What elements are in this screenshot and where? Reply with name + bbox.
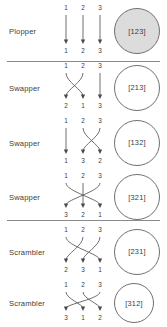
strand-arrowhead xyxy=(81,204,85,209)
strand-arrowhead xyxy=(98,204,102,209)
strand-path xyxy=(83,128,100,151)
strand-paths xyxy=(56,279,110,327)
row-label: Swapper xyxy=(9,138,40,147)
permutation-circle: [132] xyxy=(114,120,160,166)
strand-arrowhead xyxy=(64,307,68,312)
strand-arrowhead xyxy=(81,307,85,312)
strand-arrowhead xyxy=(81,259,85,264)
strand-paths xyxy=(56,224,110,279)
strand-paths xyxy=(56,2,110,60)
strand-path xyxy=(66,292,100,308)
permutation-circle: [312] xyxy=(114,283,154,323)
braid-diagram: 123312 xyxy=(56,279,110,327)
braid-diagram: 123231 xyxy=(56,224,110,279)
strand-arrowhead xyxy=(64,259,68,264)
group-separator xyxy=(7,61,160,62)
row-label: Swapper xyxy=(9,193,40,202)
strand-arrowhead xyxy=(64,150,68,155)
permutation-circle-label: [231] xyxy=(128,247,145,256)
permutation-circle-label: [213] xyxy=(128,83,145,92)
table-row: Swapper123213[213] xyxy=(0,60,167,115)
strand-paths xyxy=(56,115,110,170)
permutation-circle-label: [312] xyxy=(125,299,142,308)
strand-path xyxy=(66,73,83,96)
strand-arrowhead xyxy=(98,150,102,155)
strand-path xyxy=(66,73,83,96)
strand-paths xyxy=(56,60,110,115)
permutation-circle: [231] xyxy=(114,229,160,275)
strand-arrowhead xyxy=(98,259,102,264)
strand-arrowhead xyxy=(81,95,85,100)
braid-diagram: 123321 xyxy=(56,170,110,224)
permutation-table: Plopper123123[123]Swapper123213[213]Swap… xyxy=(0,0,167,327)
strand-arrowhead xyxy=(98,307,102,312)
table-row: Plopper123123[123] xyxy=(0,2,167,60)
strand-path xyxy=(83,128,100,151)
row-label: Scrambler xyxy=(9,299,45,308)
permutation-circle: [213] xyxy=(114,65,160,111)
strand-arrowhead xyxy=(98,95,102,100)
row-label: Plopper xyxy=(9,27,36,36)
strand-path xyxy=(83,237,100,260)
strand-arrowhead xyxy=(98,40,102,45)
permutation-circle-label: [321] xyxy=(128,193,145,202)
strand-arrowhead xyxy=(64,95,68,100)
group-separator xyxy=(7,220,160,221)
strand-arrowhead xyxy=(81,40,85,45)
table-row: Scrambler123231[231] xyxy=(0,224,167,279)
table-row: Swapper123132[132] xyxy=(0,115,167,170)
strand-arrowhead xyxy=(64,40,68,45)
strand-path xyxy=(66,292,83,308)
strand-arrowhead xyxy=(81,150,85,155)
strand-path xyxy=(66,237,100,260)
table-row: Scrambler123312[312] xyxy=(0,279,167,327)
strand-arrowhead xyxy=(64,204,68,209)
permutation-circle: [321] xyxy=(114,174,160,220)
row-label: Swapper xyxy=(9,83,40,92)
permutation-circle-label: [132] xyxy=(128,138,145,147)
braid-diagram: 123132 xyxy=(56,115,110,170)
permutation-circle: [123] xyxy=(114,8,160,54)
row-label: Scrambler xyxy=(9,247,45,256)
braid-diagram: 123123 xyxy=(56,2,110,60)
strand-paths xyxy=(56,170,110,224)
braid-diagram: 123213 xyxy=(56,60,110,115)
permutation-circle-label: [123] xyxy=(128,27,145,36)
table-row: Swapper123321[321] xyxy=(0,170,167,224)
